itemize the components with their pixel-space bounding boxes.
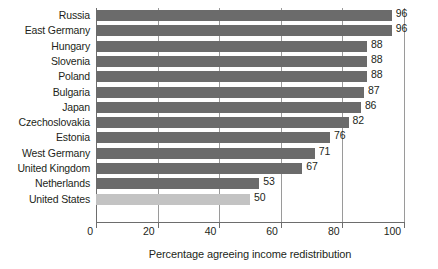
bar-row: 71 [96, 148, 404, 159]
bar-value-label: 76 [334, 130, 345, 141]
x-axis-tick-label-0: 0 [87, 225, 96, 237]
category-label: United Kingdom [0, 162, 90, 174]
category-label: Estonia [0, 131, 90, 143]
bar-value-label: 67 [306, 161, 317, 172]
bar-row: 88 [96, 41, 404, 52]
bar-row: 76 [96, 132, 404, 143]
bar-value-label: 71 [319, 146, 330, 157]
bar-value-label: 50 [254, 192, 265, 203]
category-label: Czechoslovakia [0, 116, 90, 128]
bar-value-label: 82 [353, 115, 364, 126]
bar-value-label: 87 [368, 85, 379, 96]
bar-value-label: 53 [263, 176, 274, 187]
category-label: Netherlands [0, 177, 90, 189]
bar [96, 102, 361, 113]
x-axis-tick-label-80: 80 [328, 225, 342, 237]
bar-row: 53 [96, 178, 404, 189]
bar-row: 88 [96, 56, 404, 67]
bar-row: 88 [96, 71, 404, 82]
bar-value-label: 88 [371, 39, 382, 50]
x-axis-tick-label-20: 20 [143, 225, 157, 237]
bar-row: 96 [96, 10, 404, 21]
category-label: United States [0, 193, 90, 205]
x-axis-tick-100 [404, 222, 405, 228]
x-axis-line [96, 222, 405, 223]
gridline-100 [404, 8, 405, 222]
bar [96, 148, 315, 159]
category-label: Hungary [0, 40, 90, 52]
bar [96, 71, 367, 82]
x-axis-tick-60 [281, 222, 282, 228]
category-axis-labels: RussiaEast GermanyHungarySloveniaPolandB… [0, 8, 90, 222]
bar-row: 96 [96, 25, 404, 36]
x-axis-tick-40 [219, 222, 220, 228]
x-axis-tick-0 [96, 222, 97, 228]
category-label: East Germany [0, 24, 90, 36]
x-axis-tick-label-40: 40 [205, 225, 219, 237]
bar [96, 132, 330, 143]
category-label: West Germany [0, 147, 90, 159]
bar [96, 56, 367, 67]
category-label: Japan [0, 101, 90, 113]
bar-row: 50 [96, 194, 404, 205]
category-label: Bulgaria [0, 86, 90, 98]
bar [96, 194, 250, 205]
x-axis-tick-20 [158, 222, 159, 228]
bar-value-label: 86 [365, 100, 376, 111]
bar-chart-figure: RussiaEast GermanyHungarySloveniaPolandB… [0, 0, 438, 269]
bar-value-label: 96 [396, 23, 407, 34]
plot-area: 96968888888786827671675350 [96, 8, 404, 222]
category-label: Slovenia [0, 55, 90, 67]
bar [96, 178, 259, 189]
bar [96, 10, 392, 21]
category-label: Poland [0, 70, 90, 82]
x-axis-tick-label-100: 100 [384, 225, 404, 237]
bar [96, 87, 364, 98]
bar-row: 87 [96, 87, 404, 98]
x-axis-tick-label-60: 60 [266, 225, 280, 237]
category-label: Russia [0, 9, 90, 21]
bar [96, 41, 367, 52]
x-axis-tick-80 [342, 222, 343, 228]
bar-value-label: 88 [371, 54, 382, 65]
bar-row: 86 [96, 102, 404, 113]
bar-value-label: 96 [396, 8, 407, 19]
bar-series: 96968888888786827671675350 [96, 8, 404, 222]
bar-row: 67 [96, 163, 404, 174]
x-axis-title: Percentage agreeing income redistributio… [96, 248, 404, 261]
bar-row: 82 [96, 117, 404, 128]
bar-value-label: 88 [371, 69, 382, 80]
bar [96, 25, 392, 36]
bar [96, 163, 302, 174]
bar [96, 117, 349, 128]
